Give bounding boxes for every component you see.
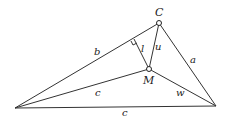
label-segment-am: c	[95, 87, 101, 98]
side-c	[15, 106, 216, 108]
label-side-b: b	[94, 46, 100, 57]
segment-am	[15, 69, 149, 108]
label-point-m: M	[142, 74, 155, 87]
label-side-c: c	[122, 107, 128, 118]
label-segment-cm: u	[155, 41, 161, 52]
label-segment-bm: w	[176, 87, 185, 98]
side-a	[159, 23, 216, 106]
label-perpendicular-l: l	[141, 43, 144, 54]
triangle-diagram: C M b a c c w u l	[0, 0, 231, 122]
label-vertex-c: C	[155, 6, 164, 19]
point-m	[147, 67, 152, 72]
point-c	[157, 21, 162, 26]
label-side-a: a	[190, 54, 196, 65]
side-b	[15, 23, 159, 108]
right-angle-marker	[131, 41, 137, 45]
